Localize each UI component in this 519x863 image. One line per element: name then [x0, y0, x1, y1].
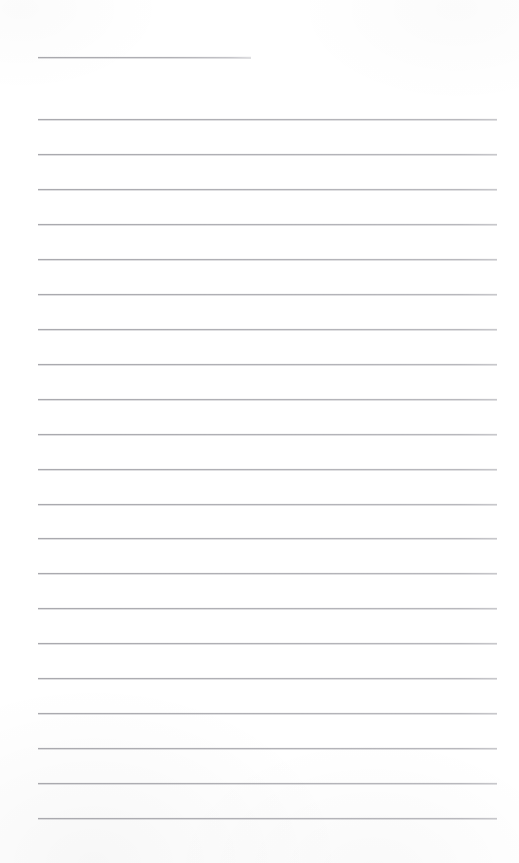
- rule-12: [38, 504, 497, 505]
- rule-3: [38, 189, 497, 190]
- rule-20: [38, 783, 497, 784]
- rule-6: [38, 294, 497, 295]
- scanned-page: [0, 0, 519, 863]
- rule-9: [38, 399, 497, 400]
- rule-1: [38, 119, 497, 120]
- rule-5: [38, 259, 497, 260]
- rule-17: [38, 678, 497, 679]
- rule-18: [38, 713, 497, 714]
- rule-11: [38, 469, 497, 470]
- rule-13: [38, 538, 497, 539]
- rule-7: [38, 329, 497, 330]
- ruled-lines-container: [0, 0, 519, 863]
- rule-19: [38, 748, 497, 749]
- rule-heading: [38, 57, 251, 58]
- rule-2: [38, 154, 497, 155]
- rule-21: [38, 818, 497, 819]
- rule-4: [38, 224, 497, 225]
- rule-16: [38, 643, 497, 644]
- rule-8: [38, 364, 497, 365]
- rule-10: [38, 434, 497, 435]
- rule-14: [38, 573, 497, 574]
- rule-15: [38, 608, 497, 609]
